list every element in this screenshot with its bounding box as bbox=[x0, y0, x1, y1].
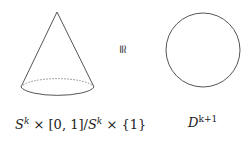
isomorphism-symbol: ≅ bbox=[116, 44, 130, 54]
label-S2: S bbox=[88, 117, 97, 132]
disk-circle bbox=[166, 13, 240, 87]
label-exponent: k+1 bbox=[198, 114, 217, 124]
cone-base-front bbox=[21, 87, 94, 95]
label-point: × {1} bbox=[102, 117, 146, 132]
cone-label: Sk × [0, 1]/Sk × {1} bbox=[15, 116, 146, 132]
disk-label: Dk+1 bbox=[188, 114, 217, 130]
cone-base-back-dotted bbox=[21, 79, 94, 87]
cone-figure bbox=[21, 12, 94, 95]
cone-right-edge bbox=[57, 12, 94, 87]
label-D: D bbox=[188, 115, 198, 130]
label-interval: × [0, 1]/ bbox=[29, 117, 88, 132]
label-S: S bbox=[15, 117, 24, 132]
cone-left-edge bbox=[21, 12, 57, 87]
